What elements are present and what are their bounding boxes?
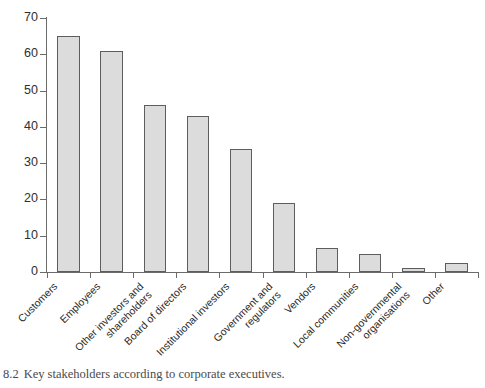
y-tick-mark [40, 199, 46, 200]
x-tick-mark [478, 273, 479, 278]
x-axis-label: Other [420, 280, 447, 307]
figure-caption: 8.2Key stakeholders according to corpora… [3, 366, 285, 382]
y-tick-mark [40, 127, 46, 128]
x-tick-mark [349, 273, 350, 278]
x-tick-mark [392, 273, 393, 278]
x-axis-label: Employees [57, 280, 102, 325]
y-tick-label: 40 [0, 119, 38, 134]
caption-number: 8.2 [3, 367, 19, 381]
x-axis-label: Institutional investors [154, 280, 232, 358]
x-tick-mark [435, 273, 436, 278]
x-axis-label: Customers [15, 280, 59, 324]
y-tick-mark [40, 236, 46, 237]
y-tick-label: 20 [0, 191, 38, 206]
bar[interactable] [144, 105, 166, 272]
bar[interactable] [273, 203, 295, 272]
y-tick-mark [40, 272, 46, 273]
x-axis-label: Vendors [282, 280, 318, 316]
x-tick-mark [219, 273, 220, 278]
y-tick-mark [40, 54, 46, 55]
bar[interactable] [316, 248, 338, 272]
y-tick-mark [40, 163, 46, 164]
x-tick-mark [133, 273, 134, 278]
bar[interactable] [100, 51, 122, 272]
y-tick-label: 0 [0, 264, 38, 279]
y-tick-label: 70 [0, 10, 38, 25]
caption-text: Key stakeholders according to corporate … [24, 367, 285, 381]
x-tick-mark [47, 273, 48, 278]
y-tick-label: 60 [0, 46, 38, 61]
bar[interactable] [445, 263, 467, 272]
x-tick-mark [306, 273, 307, 278]
y-tick-label: 10 [0, 228, 38, 243]
plot-area [47, 18, 478, 272]
bar[interactable] [187, 116, 209, 272]
bar[interactable] [359, 254, 381, 272]
y-tick-mark [40, 91, 46, 92]
x-tick-mark [90, 273, 91, 278]
figure: 010203040506070 CustomersEmployeesOther … [0, 0, 485, 388]
x-tick-mark [176, 273, 177, 278]
y-tick-label: 30 [0, 155, 38, 170]
bar[interactable] [57, 36, 79, 272]
x-tick-mark [263, 273, 264, 278]
y-tick-mark [40, 18, 46, 19]
bar[interactable] [230, 149, 252, 272]
y-tick-label: 50 [0, 83, 38, 98]
bar[interactable] [402, 268, 424, 272]
